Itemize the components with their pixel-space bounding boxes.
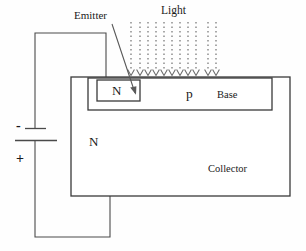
- light-ray: [213, 22, 220, 76]
- light-ray: [161, 22, 168, 76]
- emitter-label: Emitter: [74, 10, 107, 21]
- light-ray: [145, 22, 152, 76]
- light-ray: [177, 22, 184, 76]
- base-label: Base: [217, 90, 237, 101]
- light-ray: [193, 22, 200, 76]
- collector-region-label: N: [89, 135, 98, 148]
- figure-canvas: Emitter Light N p Base N Collector - +: [0, 0, 306, 251]
- battery-symbol: [15, 129, 57, 141]
- base-region-label: p: [186, 87, 193, 101]
- light-rays-group: [128, 22, 220, 76]
- phototransistor-diagram: [0, 0, 306, 251]
- collector-label: Collector: [208, 164, 247, 175]
- light-ray: [185, 22, 192, 76]
- battery-negative-label: -: [16, 119, 21, 133]
- light-ray: [205, 22, 212, 76]
- light-ray: [128, 22, 135, 76]
- light-ray: [153, 22, 160, 76]
- battery-positive-label: +: [16, 152, 24, 166]
- emitter-region-label: N: [112, 84, 121, 97]
- light-ray: [137, 22, 144, 76]
- light-label: Light: [161, 5, 186, 17]
- light-ray: [169, 22, 176, 76]
